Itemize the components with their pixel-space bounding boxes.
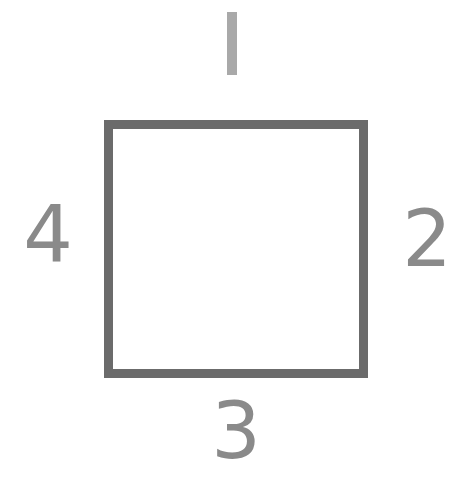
side-label-left: 4 (20, 196, 76, 274)
side-label-right: 2 (402, 200, 452, 278)
side-label-top: 1 (227, 12, 237, 75)
diagram-canvas: 1 2 3 4 (0, 0, 469, 487)
square-shape (104, 120, 368, 378)
side-label-bottom: 3 (208, 392, 264, 470)
